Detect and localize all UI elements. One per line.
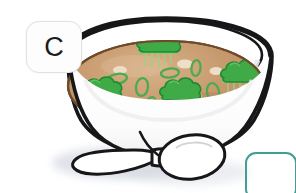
option-label-badge[interactable]: C [26, 21, 82, 73]
answer-box[interactable] [245, 152, 296, 193]
option-letter: C [44, 34, 64, 61]
illustration-canvas: C [0, 0, 296, 193]
